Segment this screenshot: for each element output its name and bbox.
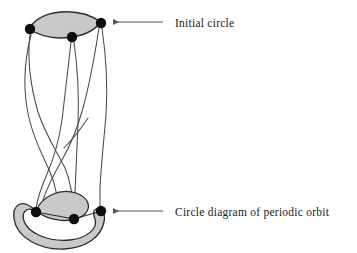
strand-crossing-stub [64,118,88,148]
strand-left-outer [25,35,58,212]
bottom-right-point [96,206,106,216]
initial-circle-label: Initial circle [175,17,234,29]
braid-diagram: Initial circle Circle diagram of periodi… [0,0,357,253]
strand-group [25,28,107,214]
figure-canvas: Initial circle Circle diagram of periodi… [0,0,357,253]
periodic-orbit-shape [14,192,105,250]
top-right-point [96,18,106,28]
initial-circle-lens [29,12,101,38]
strand-middle [36,42,71,209]
strand-left [29,34,74,214]
top-left-point [25,24,35,34]
bottom-middle-point [69,214,79,224]
bottom-left-point [31,207,41,217]
periodic-orbit-twist-flap [36,192,88,221]
initial-circle-shape [29,12,101,38]
top-middle-point [67,32,77,42]
strand-right [100,28,107,209]
periodic-orbit-label: Circle diagram of periodic orbit [175,206,330,219]
